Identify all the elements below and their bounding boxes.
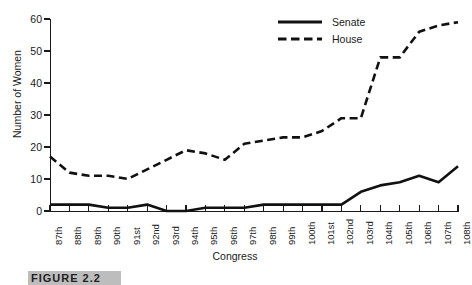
x-axis-line	[50, 211, 459, 212]
x-axis-tick-label: 88th	[73, 227, 83, 245]
x-axis-tick-label: 97th	[248, 227, 258, 245]
legend-line-dashed-icon	[277, 33, 323, 45]
x-axis-tick-label: 90th	[112, 227, 122, 245]
chart-legend: Senate House	[277, 13, 397, 47]
figure-caption-text: FIGURE 2.2	[28, 271, 121, 285]
x-axis-tick-label: 93rd	[171, 226, 181, 245]
x-axis-tick-label: 102nd	[345, 219, 355, 245]
x-axis-title: Congress	[0, 250, 470, 262]
plot-area	[50, 19, 458, 211]
x-axis-tick-label: 100th	[307, 222, 317, 245]
x-axis-tick-label: 89th	[93, 227, 103, 245]
figure-caption-bar: FIGURE 2.2	[28, 271, 121, 285]
y-axis-tick-label: 40	[20, 78, 42, 89]
y-axis-tick-label: 0	[20, 206, 42, 217]
x-axis-tick-label: 104th	[384, 222, 394, 245]
y-axis-tick-label: 30	[20, 110, 42, 121]
x-axis-tick-label: 94th	[190, 227, 200, 245]
x-axis-tick-label: 103rd	[365, 221, 375, 245]
x-axis-tick-label: 101st	[326, 222, 336, 245]
x-axis-tick-label: 87th	[54, 227, 64, 245]
series-lines	[50, 19, 458, 211]
series-line-senate	[50, 166, 458, 211]
y-axis-tick-label: 60	[20, 14, 42, 25]
y-axis-tick-label: 10	[20, 174, 42, 185]
legend-item-senate: Senate	[277, 13, 397, 30]
x-axis-tick-label: 107th	[443, 222, 453, 245]
y-axis-tick-label: 50	[20, 46, 42, 57]
x-axis-tick-label: 96th	[229, 227, 239, 245]
x-axis-tick-label: 92nd	[151, 224, 161, 245]
legend-line-solid-icon	[277, 16, 323, 28]
x-axis-tick-label: 99th	[287, 227, 297, 245]
x-axis-tick-label: 108th	[462, 222, 472, 245]
y-axis-title: Number of Women	[11, 29, 23, 159]
legend-label-house: House	[332, 33, 362, 45]
x-axis-tick-label: 98th	[268, 227, 278, 245]
x-axis-tick-label: 106th	[423, 222, 433, 245]
legend-label-senate: Senate	[332, 16, 365, 28]
x-axis-tick-label: 105th	[404, 222, 414, 245]
y-axis-tick-label: 20	[20, 142, 42, 153]
legend-item-house: House	[277, 30, 397, 47]
x-axis-tick-label: 95th	[209, 227, 219, 245]
x-axis-tick-label: 91st	[132, 227, 142, 245]
